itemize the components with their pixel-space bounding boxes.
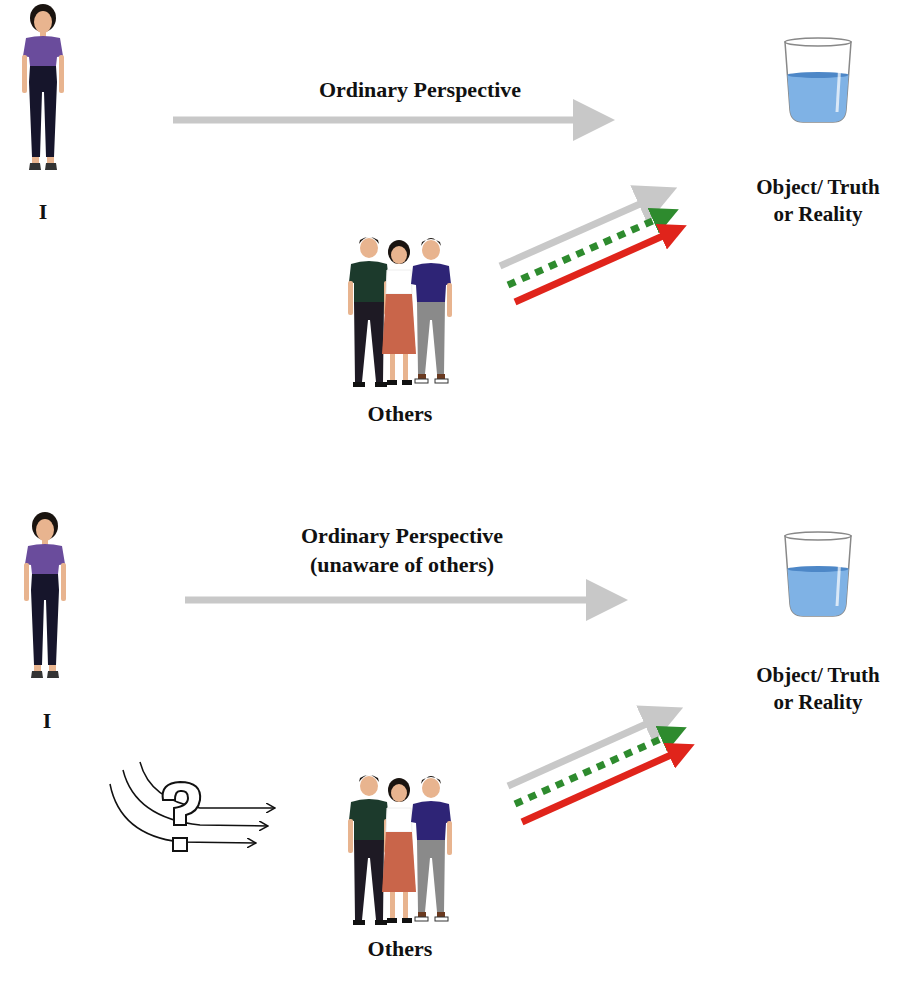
top-self-label: I: [28, 198, 58, 227]
top-others-group: [348, 237, 452, 387]
bottom-arrow-label: Ordinary Perspective (unaware of others): [232, 522, 572, 579]
bottom-converging-arrows: [508, 716, 682, 822]
bottom-object-label-line2: or Reality: [718, 689, 918, 716]
top-glass-of-water: [785, 38, 851, 122]
bottom-others-group: [348, 775, 452, 925]
top-arrow-label: Ordinary Perspective: [250, 76, 590, 105]
bottom-self-label: I: [32, 707, 62, 736]
bottom-object-label-line1: Object/ Truth: [718, 662, 918, 689]
top-object-label-line2: or Reality: [718, 201, 918, 228]
top-object-label-line1: Object/ Truth: [718, 174, 918, 201]
top-others-label: Others: [330, 400, 470, 429]
bottom-self-figure: [24, 512, 66, 678]
bottom-glass-of-water: [785, 532, 851, 616]
diagram-canvas: [0, 0, 918, 996]
top-self-figure: [22, 4, 64, 170]
bottom-arrow-label-line2: (unaware of others): [232, 551, 572, 580]
top-object-label: Object/ Truth or Reality: [718, 174, 918, 229]
bottom-arrow-label-line1: Ordinary Perspective: [232, 522, 572, 551]
confusion-icon: [110, 762, 275, 851]
top-converging-arrows: [500, 196, 674, 302]
bottom-others-label: Others: [330, 935, 470, 964]
bottom-object-label: Object/ Truth or Reality: [718, 662, 918, 717]
